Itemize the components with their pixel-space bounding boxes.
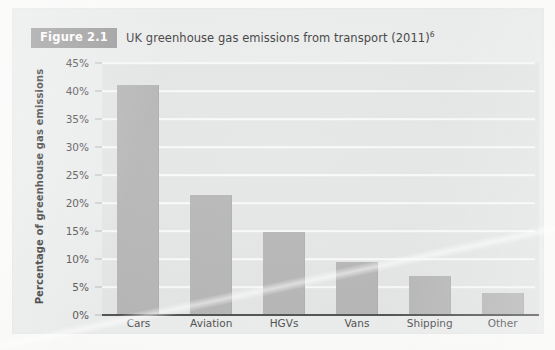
y-axis-tick-mark <box>95 259 102 260</box>
y-axis-tick-mark <box>95 203 102 204</box>
bar-aviation[interactable] <box>190 195 232 315</box>
bar-hgvs[interactable] <box>263 232 305 315</box>
y-axis-tick-label: 30% <box>66 141 89 153</box>
x-axis-label-other: Other <box>466 317 539 329</box>
bar-slot <box>175 63 248 315</box>
bar-slot <box>102 63 175 315</box>
bar-vans[interactable] <box>336 262 378 315</box>
figure-title: UK greenhouse gas emissions from transpo… <box>126 31 435 45</box>
bar-series <box>102 63 539 315</box>
y-axis-tick-mark <box>95 147 102 148</box>
bar-other[interactable] <box>482 293 524 315</box>
figure-card: Figure 2.1 UK greenhouse gas emissions f… <box>13 9 543 333</box>
y-axis-tick-mark <box>95 231 102 232</box>
bar-cars[interactable] <box>117 85 159 315</box>
y-axis-tick-mark <box>95 287 102 288</box>
y-axis-title: Percentage of greenhouse gas emissions <box>31 61 49 311</box>
x-axis-label-aviation: Aviation <box>175 317 248 329</box>
figure-title-text: UK greenhouse gas emissions from transpo… <box>126 31 430 45</box>
bar-chart: Percentage of greenhouse gas emissions 0… <box>31 61 539 333</box>
figure-footnote-marker: 6 <box>430 30 435 39</box>
y-axis-title-text: Percentage of greenhouse gas emissions <box>35 68 46 304</box>
bar-slot <box>320 63 393 315</box>
bar-slot <box>466 63 539 315</box>
x-axis-label-shipping: Shipping <box>393 317 466 329</box>
plot-area <box>102 63 539 315</box>
y-axis-tick-label: 20% <box>66 197 89 209</box>
plot-area-wrapper: 0%5%10%15%20%25%30%35%40%45% <box>53 63 539 315</box>
y-axis-tick-label: 15% <box>66 225 89 237</box>
y-axis-tick-label: 0% <box>72 309 89 321</box>
y-axis-tick-label: 10% <box>66 253 89 265</box>
y-axis-ticks: 0%5%10%15%20%25%30%35%40%45% <box>53 63 95 315</box>
y-axis-tick-mark <box>95 175 102 176</box>
figure-number-badge: Figure 2.1 <box>31 28 117 48</box>
bar-shipping[interactable] <box>409 276 451 315</box>
x-axis-label-hgvs: HGVs <box>248 317 321 329</box>
bar-slot <box>393 63 466 315</box>
scanned-page: Figure 2.1 UK greenhouse gas emissions f… <box>0 0 555 350</box>
y-axis-tick-label: 45% <box>66 57 89 69</box>
y-axis-tick-label: 40% <box>66 85 89 97</box>
y-axis-tick-mark <box>95 315 102 316</box>
figure-header: Figure 2.1 UK greenhouse gas emissions f… <box>31 28 435 48</box>
y-axis-tick-mark <box>95 63 102 64</box>
y-axis-tick-mark <box>95 119 102 120</box>
bar-slot <box>248 63 321 315</box>
x-axis-label-cars: Cars <box>102 317 175 329</box>
x-axis-label-vans: Vans <box>320 317 393 329</box>
y-axis-tick-label: 5% <box>72 281 89 293</box>
x-axis-labels: CarsAviationHGVsVansShippingOther <box>102 317 539 329</box>
x-axis-line <box>102 314 539 316</box>
y-axis-tick-mark <box>95 91 102 92</box>
y-axis-tick-label: 35% <box>66 113 89 125</box>
y-axis-tick-label: 25% <box>66 169 89 181</box>
